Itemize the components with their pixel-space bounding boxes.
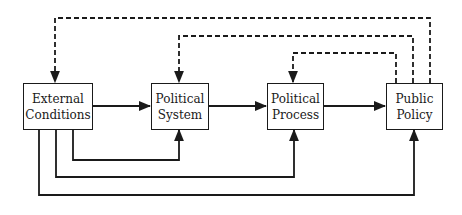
edge-external-to-policy-bottom [39,129,414,195]
node-political-process: Political Process [267,83,324,130]
feedback-policy-to-external [55,18,430,83]
node-label-line1: External [32,91,84,107]
node-label-line1: Political [156,91,205,107]
node-label-line2: Conditions [25,107,90,123]
edge-external-to-system-bottom [73,129,179,160]
feedback-policy-to-process [293,53,396,83]
node-label-line1: Public [396,91,434,107]
node-label-line2: Policy [397,107,433,123]
node-label-line2: System [158,107,202,123]
node-political-system: Political System [151,83,209,130]
feedback-policy-to-system [179,36,413,83]
edge-external-to-process-bottom [56,129,294,177]
node-label-line2: Process [272,107,319,123]
node-public-policy: Public Policy [386,83,443,130]
node-external-conditions: External Conditions [23,83,93,130]
node-label-line1: Political [271,91,320,107]
